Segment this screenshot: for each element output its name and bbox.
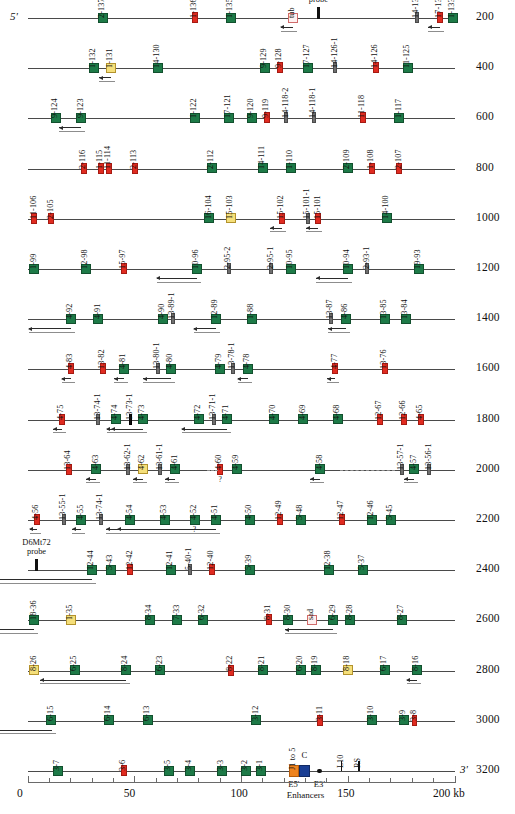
marker-label: 4-73	[137, 404, 146, 419]
marker-label: 4-92	[65, 304, 74, 319]
scale-tick	[390, 778, 391, 783]
marker-label: 15-101-1	[302, 188, 311, 219]
marker-label: 5-40-1	[184, 548, 193, 570]
marker-label: 4-50	[244, 505, 253, 520]
row-position-label: 1200	[476, 261, 500, 273]
marker-label: 8-28	[345, 605, 354, 620]
marker-label: 4-74	[110, 404, 119, 419]
contig-extent-bar	[53, 432, 66, 433]
contig-extent-bar	[118, 533, 220, 534]
marker-label: 4-75	[56, 404, 65, 419]
marker-label: 4-61	[170, 454, 179, 469]
marker-label: 2-116	[78, 149, 87, 168]
marker-label: 4-90	[157, 304, 166, 319]
scale-tick-label: 200 kb	[433, 787, 465, 799]
direction-arrow	[29, 328, 71, 329]
direction-arrow	[238, 378, 248, 379]
marker-label: 12-67	[374, 400, 383, 420]
marker-label: 4-72	[193, 404, 202, 419]
contig-extent-bar	[310, 482, 324, 483]
marker-label: 4-52	[189, 505, 198, 520]
contig-extent-bar	[306, 231, 322, 232]
marker-label: 12-98	[80, 249, 89, 269]
marker-label: 13-57-1	[396, 443, 405, 470]
probe-label: D6Mt72probe	[11, 538, 63, 556]
contig-extent-bar	[316, 282, 352, 283]
marker-label: 1-88	[246, 304, 255, 319]
marker-label: 6-20	[295, 655, 304, 670]
probe-label-line2: probe	[11, 547, 63, 556]
contig-extent-bar	[72, 533, 85, 534]
marker-label: 15-102	[276, 195, 285, 219]
scale-tick	[412, 778, 413, 783]
chromosome-axis-line	[28, 620, 455, 621]
marker-label: 8-30	[283, 605, 292, 620]
contig-extent-bar	[0, 733, 56, 734]
marker-label: 6-29	[328, 605, 337, 620]
marker-label: 13-85	[379, 300, 388, 320]
marker-label: sad	[306, 609, 315, 620]
contig-extent-bar	[29, 332, 75, 333]
marker-label: 2-113	[129, 149, 138, 168]
feature-c-region-box[interactable]	[299, 765, 310, 777]
direction-arrow	[133, 479, 143, 480]
contig-extent-bar	[404, 482, 418, 483]
marker-label: 4-59	[231, 454, 240, 469]
marker-label: 4-79	[214, 354, 223, 369]
row-position-label: 2600	[476, 612, 500, 624]
marker-label: 3-6	[118, 760, 127, 771]
probe-label: D6Bhm9probe	[292, 0, 344, 4]
marker-label: 8-16	[411, 655, 420, 670]
marker-label: 14-111	[257, 145, 266, 168]
direction-arrow	[111, 429, 143, 430]
row-position-label: 3000	[476, 713, 500, 725]
contig-extent-bar	[270, 231, 286, 232]
row-position-label: 3200	[476, 763, 500, 775]
marker-label: 3-12	[251, 705, 260, 720]
marker-label: 3-4	[184, 760, 193, 771]
marker-label: 3-11	[315, 706, 324, 721]
marker-label: 1-110	[285, 149, 294, 168]
direction-arrow	[327, 378, 335, 379]
marker-label: 9-123	[76, 99, 85, 119]
scale-tick	[326, 778, 327, 783]
direction-arrow	[194, 328, 216, 329]
marker-label: 10-96	[191, 249, 200, 269]
marker-label: 6-15	[46, 705, 55, 720]
marker-label: 6-25	[69, 655, 78, 670]
scale-tick-label: 100	[231, 787, 248, 799]
row-position-label: 1000	[476, 211, 500, 223]
marker-label: 1-122	[189, 99, 198, 119]
contig-extent-bar	[0, 633, 38, 634]
marker-label: 6-32	[197, 605, 206, 620]
scale-tick	[348, 776, 349, 783]
feature-j1-to-5-label: J1 to 5	[288, 747, 297, 770]
marker-label: 5-39	[244, 555, 253, 570]
scale-tick	[70, 778, 71, 783]
marker-label: 13-62-1	[123, 443, 132, 470]
direction-arrow	[72, 529, 81, 530]
scale-bar: 050100150200 kb	[0, 778, 515, 814]
scale-tick	[28, 776, 29, 783]
contig-extent-bar	[86, 482, 100, 483]
row-position-label: 1800	[476, 412, 500, 424]
scale-tick	[220, 778, 221, 783]
direction-arrow	[404, 479, 414, 480]
marker-label: 13-61-1	[155, 443, 164, 470]
probe-label-line1: D6Mt72	[11, 538, 63, 547]
contig-extent-bar	[30, 533, 41, 534]
scale-tick	[284, 778, 285, 783]
marker-label: 4-55	[76, 505, 85, 520]
direction-arrow	[165, 479, 175, 480]
direction-arrow	[59, 127, 81, 128]
marker-label: 3-7	[52, 760, 61, 771]
marker-label: 2-93-1	[362, 247, 371, 269]
contig-extent-bar	[194, 332, 220, 333]
marker-label: 15-103	[225, 195, 234, 219]
marker-label: 4-80	[165, 354, 174, 369]
marker-label: 8-18	[342, 655, 351, 670]
marker-label: 4-56	[31, 505, 40, 520]
marker-label: 4-62	[137, 454, 146, 469]
marker-label: 2-107	[394, 149, 403, 169]
contig-extent-bar	[285, 633, 337, 634]
